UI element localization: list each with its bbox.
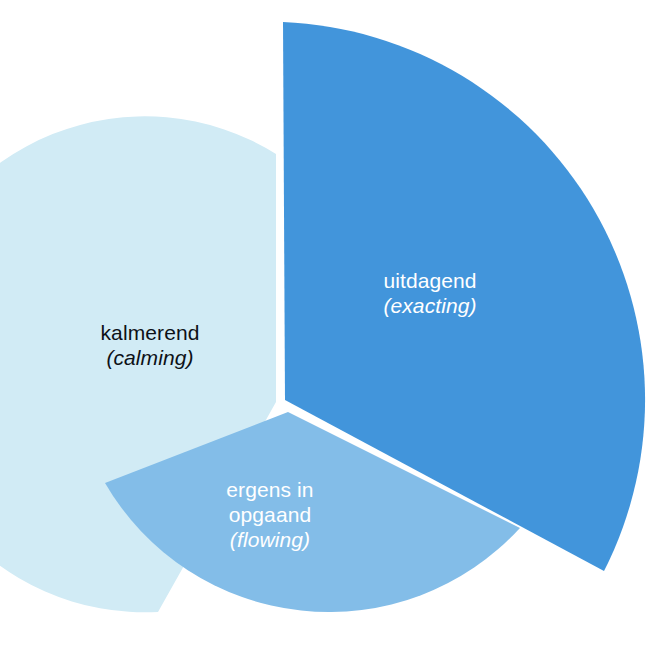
pie-chart: uitdagend (exacting) kalmerend (calming)…: [0, 0, 663, 653]
pie-chart-canvas: [0, 0, 663, 653]
